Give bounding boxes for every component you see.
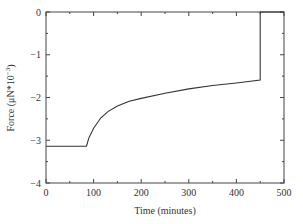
y-tick-label: −2 bbox=[30, 92, 41, 103]
plot-area-border bbox=[46, 12, 284, 183]
y-tick-label: −3 bbox=[30, 135, 41, 146]
y-axis-title: Force (μN*10−3) bbox=[4, 65, 17, 132]
axis-tick-labels: 01002003004005000−1−2−3−4 bbox=[30, 7, 291, 199]
x-axis-title: Time (minutes) bbox=[134, 205, 196, 217]
y-tick-label: −4 bbox=[30, 178, 41, 189]
force-series-line bbox=[46, 12, 284, 146]
y-tick-label: −1 bbox=[30, 49, 41, 60]
x-tick-label: 500 bbox=[277, 187, 292, 198]
x-tick-label: 400 bbox=[229, 187, 244, 198]
x-tick-label: 300 bbox=[181, 187, 196, 198]
x-tick-label: 200 bbox=[134, 187, 149, 198]
plot-frame bbox=[46, 12, 284, 183]
force-vs-time-chart: 01002003004005000−1−2−3−4 Time (minutes)… bbox=[0, 0, 303, 224]
axis-ticks bbox=[46, 12, 284, 183]
x-tick-label: 100 bbox=[86, 187, 101, 198]
x-tick-label: 0 bbox=[44, 187, 49, 198]
y-tick-label: 0 bbox=[36, 7, 41, 18]
